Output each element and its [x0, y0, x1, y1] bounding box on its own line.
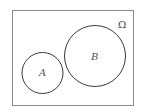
venn-diagram: A B Ω [0, 0, 145, 112]
set-b-label: B [90, 51, 98, 62]
universe-frame [13, 11, 134, 106]
universe-label: Ω [118, 19, 126, 30]
set-a-label: A [38, 67, 46, 78]
